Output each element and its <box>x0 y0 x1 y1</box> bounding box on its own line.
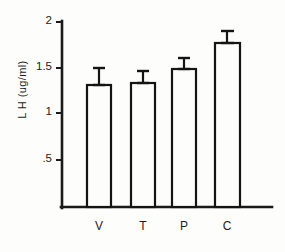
bar-C <box>215 43 240 207</box>
x-tick-label-V: V <box>85 220 113 232</box>
bar-group-V <box>87 68 111 207</box>
y-tick-label-2: 2 <box>24 15 52 27</box>
x-tick-label-T: T <box>129 220 157 232</box>
bar-group-T <box>131 71 155 207</box>
y-tick-label-1: 1 <box>24 106 52 118</box>
bar-group-C <box>215 31 240 207</box>
plot-area <box>0 0 285 252</box>
chart-figure: 2 1.5 1 .5 V T P C L H (ug/ml) <box>0 0 285 252</box>
x-tick-label-C: C <box>213 220 241 232</box>
y-tick-label-0p5: .5 <box>24 153 52 165</box>
y-tick-label-1p5: 1.5 <box>24 61 52 73</box>
x-tick-label-P: P <box>170 220 198 232</box>
bar-P <box>172 69 196 207</box>
y-axis-title: L H (ug/ml) <box>17 42 28 138</box>
bar-T <box>131 83 155 207</box>
bar-group-P <box>172 58 196 207</box>
bar-V <box>87 85 111 207</box>
